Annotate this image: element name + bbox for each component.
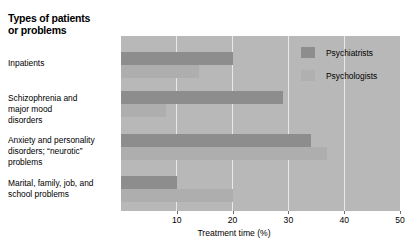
legend-label-psychologists: Psychologists bbox=[326, 71, 377, 81]
bar-psychologists-inpatients bbox=[121, 65, 199, 78]
category-label-inpatients: Inpatients bbox=[8, 58, 120, 69]
bar-psychiatrists-anxiety bbox=[121, 134, 311, 147]
x-tick-mark-20 bbox=[233, 211, 234, 214]
bar-psychiatrists-schizophrenia bbox=[121, 91, 283, 104]
legend-item-psychologists: Psychologists bbox=[301, 70, 397, 81]
x-tick-label-20: 20 bbox=[228, 215, 238, 225]
category-label-marital: Marital, family, job, andschool problems bbox=[8, 178, 120, 200]
x-axis-title-text: Treatment time (%) bbox=[197, 228, 270, 238]
plot-area: Psychiatrists Psychologists bbox=[121, 36, 400, 211]
x-tick-label-30: 30 bbox=[284, 215, 294, 225]
bar-psychologists-marital bbox=[121, 189, 233, 202]
bar-psychologists-schizophrenia bbox=[121, 104, 166, 117]
bar-psychiatrists-inpatients bbox=[121, 52, 233, 65]
bar-psychiatrists-marital bbox=[121, 176, 177, 189]
legend-swatch-psychiatrists-icon bbox=[301, 47, 315, 58]
x-tick-mark-30 bbox=[288, 211, 289, 214]
bar-psychologists-anxiety bbox=[121, 147, 327, 160]
category-label-schizophrenia: Schizophrenia andmajor mooddisorders bbox=[8, 93, 120, 126]
x-tick-label-50: 50 bbox=[395, 215, 405, 225]
x-tick-mark-40 bbox=[344, 211, 345, 214]
x-tick-mark-50 bbox=[400, 211, 401, 214]
legend-label-psychiatrists: Psychiatrists bbox=[326, 48, 373, 58]
chart-figure: Types of patientsor problems Inpatients … bbox=[0, 0, 418, 250]
x-tick-label-40: 40 bbox=[339, 215, 349, 225]
chart-title: Types of patientsor problems bbox=[8, 12, 118, 37]
legend-item-psychiatrists: Psychiatrists bbox=[301, 47, 397, 58]
gridline-30 bbox=[288, 36, 289, 211]
x-axis-title: Treatment time (%) bbox=[0, 228, 418, 238]
category-label-anxiety: Anxiety and personalitydisorders; “neuro… bbox=[8, 135, 120, 168]
x-tick-mark-10 bbox=[177, 211, 178, 214]
legend-swatch-psychologists-icon bbox=[301, 70, 315, 81]
chart-legend: Psychiatrists Psychologists bbox=[301, 47, 397, 93]
x-tick-label-10: 10 bbox=[172, 215, 182, 225]
